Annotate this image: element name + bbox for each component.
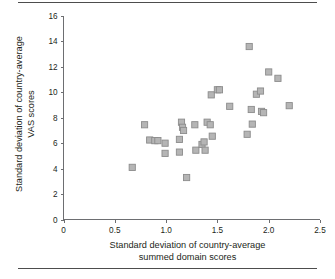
data-point-marker [180, 127, 186, 133]
x-tick-label: 1.5 [212, 226, 224, 235]
x-axis-title-line1: Standard deviation of country-average [55, 240, 320, 252]
y-tick-label: 8 [53, 114, 58, 123]
plot-area: 0246810121416 00.51.01.52.02.5 Standard … [0, 0, 335, 279]
data-point-marker [275, 75, 281, 81]
scatter-plot-svg: 0246810121416 00.51.01.52.02.5 [0, 0, 335, 279]
data-point-marker [129, 164, 135, 170]
y-tick-label: 4 [53, 165, 58, 174]
data-point-marker [249, 121, 255, 127]
y-axis: 0246810121416 [48, 12, 63, 225]
x-tick-label: 1.0 [160, 226, 172, 235]
data-point-marker [162, 140, 168, 146]
data-point-marker [216, 87, 222, 93]
y-tick-label: 16 [48, 12, 58, 21]
y-tick-label: 6 [53, 139, 58, 148]
data-point-marker [176, 136, 182, 142]
y-axis-title-line2: VAS scores [25, 10, 37, 218]
x-axis-title: Standard deviation of country-average su… [55, 240, 320, 263]
y-tick-label: 10 [48, 88, 58, 97]
data-point-marker [141, 122, 147, 128]
data-point-marker [202, 147, 208, 153]
y-tick-label: 2 [53, 190, 58, 199]
data-point-marker [184, 174, 190, 180]
figure-container: 0246810121416 00.51.01.52.02.5 Standard … [0, 0, 335, 279]
y-axis-title: Standard deviation of country-average VA… [13, 10, 37, 218]
data-point-marker [193, 147, 199, 153]
data-point-marker [248, 106, 254, 112]
x-tick-label: 2.0 [263, 226, 275, 235]
data-point-marker [257, 88, 263, 94]
y-axis-title-line1: Standard deviation of country-average [13, 10, 25, 218]
x-axis: 00.51.01.52.02.5 [61, 220, 326, 235]
data-point-marker [176, 149, 182, 155]
data-point-marker [244, 131, 250, 137]
data-point-marker [246, 43, 252, 49]
x-tick-label: 2.5 [314, 226, 326, 235]
y-tick-label: 0 [53, 216, 58, 225]
data-point-marker [209, 133, 215, 139]
x-tick-label: 0 [61, 226, 66, 235]
x-axis-title-line2: summed domain scores [55, 252, 320, 264]
y-tick-label: 14 [48, 37, 58, 46]
data-point-marker [192, 122, 198, 128]
data-point-marker [208, 92, 214, 98]
x-tick-label: 0.5 [109, 226, 121, 235]
data-point-marker [162, 150, 168, 156]
data-point-marker [201, 139, 207, 145]
data-point-marker [260, 110, 266, 116]
y-tick-label: 12 [48, 63, 58, 72]
data-point-marker [227, 103, 233, 109]
data-point-marker [286, 103, 292, 109]
data-point-marker [155, 138, 161, 144]
data-points [129, 43, 292, 180]
data-point-marker [207, 122, 213, 128]
data-point-marker [266, 69, 272, 75]
